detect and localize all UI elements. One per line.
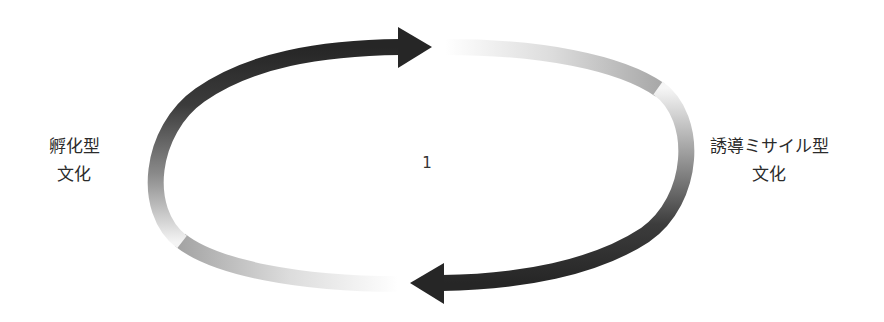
center-label: 1 (419, 153, 435, 173)
arrowhead-left-icon (410, 263, 444, 304)
bottom-arrow (410, 47, 686, 304)
right-node-line-1: 誘導ミサイル型 (696, 132, 842, 160)
right-node-label: 誘導ミサイル型 文化 (696, 132, 842, 188)
left-node-label: 孵化型 文化 (40, 132, 108, 188)
left-node-line-2: 文化 (40, 160, 108, 188)
cycle-diagram: 孵化型 文化 1 誘導ミサイル型 文化 (0, 0, 884, 322)
right-node-line-2: 文化 (696, 160, 842, 188)
left-node-line-1: 孵化型 (40, 132, 108, 160)
arrowhead-right-icon (398, 27, 432, 68)
top-arrow (156, 27, 432, 284)
